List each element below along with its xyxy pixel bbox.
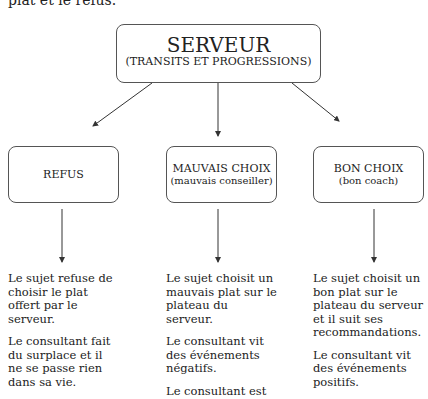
- node-subtitle: (bon coach): [314, 175, 423, 187]
- node-title: MAUVAIS CHOIX: [167, 162, 276, 175]
- paragraph: Le consultant vit des événements positif…: [313, 349, 427, 390]
- paragraph: Le consultant fait du surplace et il ne …: [8, 335, 120, 389]
- node-mauvais-choix: MAUVAIS CHOIX (mauvais conseiller): [166, 146, 277, 203]
- bon-choix-description: Le sujet choisit un bon plat sur le plat…: [313, 272, 427, 398]
- paragraph: Le sujet choisit un bon plat sur le plat…: [313, 272, 427, 340]
- paragraph: Le consultant est: [166, 385, 278, 399]
- node-title: REFUS: [9, 168, 118, 181]
- paragraph: Le consultant vit des événements négatif…: [166, 335, 278, 376]
- node-refus: REFUS: [8, 146, 119, 203]
- mauvais-choix-description: Le sujet choisit un mauvais plat sur le …: [166, 272, 278, 399]
- node-bon-choix: BON CHOIX (bon coach): [313, 146, 424, 203]
- root-node-serveur: SERVEUR (TRANSITS ET PROGRESSIONS): [116, 24, 321, 83]
- node-subtitle: (mauvais conseiller): [167, 175, 276, 187]
- node-title: BON CHOIX: [314, 162, 423, 175]
- refus-description: Le sujet refuse de choisir le plat offer…: [8, 272, 120, 398]
- paragraph: Le sujet refuse de choisir le plat offer…: [8, 272, 120, 326]
- root-subtitle: (TRANSITS ET PROGRESSIONS): [117, 56, 320, 68]
- root-title: SERVEUR: [117, 34, 320, 56]
- paragraph: Le sujet choisit un mauvais plat sur le …: [166, 272, 278, 326]
